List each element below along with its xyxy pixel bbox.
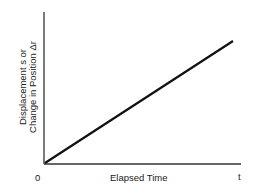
x-axis-label: Elapsed Time: [110, 172, 168, 183]
y-axis-label-line-2: Change in Position Δr: [28, 32, 38, 142]
displacement-time-chart: [0, 0, 260, 195]
y-axis-label: Displacement s or Change in Position Δr: [18, 32, 38, 142]
data-line: [45, 41, 233, 163]
x-origin-label: 0: [35, 172, 40, 183]
x-end-label: t: [238, 171, 241, 182]
